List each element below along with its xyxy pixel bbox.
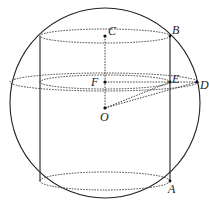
point-D [195,80,198,83]
label-C: C [108,24,117,38]
segment-OE [105,82,170,108]
label-A: A [167,182,176,196]
segment-OD [105,82,197,108]
geometry-figure: C B F E D O A [0,0,209,220]
label-E: E [171,72,180,86]
cylinder-bottom-circle-back [40,172,170,181]
label-B: B [172,23,180,37]
cylinder-bottom-circle-front [40,181,170,190]
sphere-cylinder-diagram: C B F E D O A [0,0,209,220]
point-F [103,80,106,83]
label-F: F [90,75,99,89]
point-C [103,34,106,37]
label-O: O [100,110,109,124]
point-B [169,35,172,38]
label-D: D [199,78,209,92]
